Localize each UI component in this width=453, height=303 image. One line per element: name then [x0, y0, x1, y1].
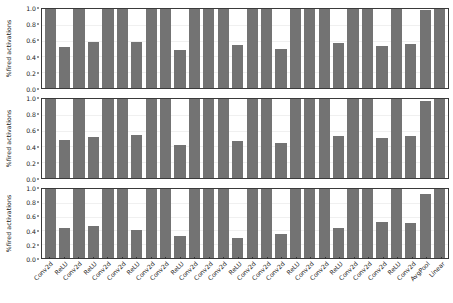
bar-slot	[216, 189, 230, 258]
panel-bottom: %fired activations 1.0 0.8 0.6 0.4 0.2 0…	[0, 188, 453, 259]
bar	[189, 189, 200, 258]
x-tick-slot: Conv2d	[42, 259, 57, 303]
bar-slot	[216, 9, 230, 88]
panel-middle: %fired activations 1.0 0.8 0.6 0.4 0.2 0…	[0, 98, 453, 179]
bar	[420, 194, 431, 258]
x-tick-mark	[223, 257, 224, 260]
bar	[232, 45, 243, 88]
y-tick-label: 0.0	[26, 256, 36, 263]
bar-slot	[158, 99, 172, 178]
bar-slot	[72, 189, 86, 258]
y-tick-label: 1.0	[26, 185, 36, 192]
panel-top: %fired activations 1.0 0.8 0.6 0.4 0.2 0…	[0, 8, 453, 89]
bar	[304, 189, 315, 258]
y-tick-label: 0.2	[26, 159, 36, 166]
x-tick-slot: Conv2d	[303, 259, 318, 303]
bar	[45, 9, 56, 88]
bar	[247, 9, 258, 88]
x-tick-mark	[281, 257, 282, 260]
x-tick-slot: Conv2d	[158, 259, 173, 303]
bar-slot	[173, 9, 187, 88]
bar-slot	[101, 189, 115, 258]
bar-slot	[72, 9, 86, 88]
bar	[391, 189, 402, 258]
bar-slot	[43, 189, 57, 258]
x-tick-mark	[93, 257, 94, 260]
bar	[391, 9, 402, 88]
bar	[405, 223, 416, 258]
x-tick-mark	[339, 257, 340, 260]
bar-slot	[245, 99, 259, 178]
bar	[362, 9, 373, 88]
panel-top-y-axis-label: %fired activations	[2, 8, 16, 89]
x-tick-slot: Conv2d	[274, 259, 289, 303]
bar-slot	[187, 9, 201, 88]
bar-slot	[404, 9, 418, 88]
bar	[203, 189, 214, 258]
y-tick-label: 0.4	[26, 143, 36, 150]
bar	[88, 42, 99, 88]
x-tick-mark	[78, 257, 79, 260]
x-tick-mark	[397, 257, 398, 260]
bar-slot	[317, 9, 331, 88]
bar-slot	[389, 9, 403, 88]
panel-bottom-plot-area	[41, 188, 449, 259]
bar	[275, 143, 286, 178]
bar-slot	[144, 99, 158, 178]
panel-bottom-bar-series	[42, 189, 448, 258]
bar-slot	[303, 189, 317, 258]
bar-slot	[418, 99, 432, 178]
bar-slot	[130, 9, 144, 88]
x-tick-slot: ReLU	[57, 259, 72, 303]
bar-slot	[404, 99, 418, 178]
bar	[391, 99, 402, 178]
bar	[434, 99, 445, 178]
bar-slot	[360, 9, 374, 88]
panel-middle-y-axis-label-text: %fired activations	[6, 110, 13, 168]
panel-bottom-y-tick-labels: 1.0 0.8 0.6 0.4 0.2 0.0	[16, 188, 39, 259]
bar-slot	[360, 99, 374, 178]
bar-slot	[432, 99, 446, 178]
y-tick-mark	[37, 89, 40, 90]
bar	[146, 189, 157, 258]
x-tick-slot: ReLU	[289, 259, 304, 303]
bar-slot	[317, 189, 331, 258]
x-tick-slot: ReLU	[86, 259, 101, 303]
x-tick-slot: ReLU	[231, 259, 246, 303]
y-tick-mark	[37, 146, 40, 147]
bar	[333, 136, 344, 178]
x-tick-slot: AvgPool	[419, 259, 434, 303]
bar	[102, 99, 113, 178]
bar-slot	[173, 99, 187, 178]
bar	[333, 228, 344, 258]
y-tick-mark	[37, 56, 40, 57]
bar-slot	[303, 99, 317, 178]
x-tick-mark	[136, 257, 137, 260]
bar	[174, 50, 185, 88]
x-tick-label: Conv2d	[33, 260, 55, 282]
bar-slot	[418, 189, 432, 258]
bar	[290, 189, 301, 258]
x-tick-slot: Conv2d	[245, 259, 260, 303]
bar	[304, 9, 315, 88]
bar	[247, 189, 258, 258]
x-tick-slot: ReLU	[129, 259, 144, 303]
bar	[174, 145, 185, 178]
bar	[434, 189, 445, 258]
y-tick-mark	[37, 216, 40, 217]
bar-slot	[43, 99, 57, 178]
x-tick-slot: ReLU	[390, 259, 405, 303]
panel-middle-y-axis-label: %fired activations	[2, 98, 16, 179]
bar	[218, 99, 229, 178]
x-tick-slot: Conv2d	[376, 259, 391, 303]
bar	[146, 99, 157, 178]
bar	[319, 9, 330, 88]
bar-slot	[375, 99, 389, 178]
bar	[218, 9, 229, 88]
bar-slot	[331, 189, 345, 258]
bar-slot	[144, 9, 158, 88]
x-tick-slot: Linear	[434, 259, 449, 303]
x-tick-slot: Conv2d	[100, 259, 115, 303]
bar	[333, 43, 344, 88]
bar	[376, 46, 387, 88]
